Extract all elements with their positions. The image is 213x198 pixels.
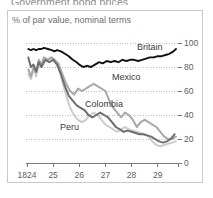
y-tick-label: 20 (184, 134, 206, 144)
x-tick-label: 28 (118, 170, 146, 180)
chart-figure: Government bond prices % of par value, n… (0, 0, 213, 198)
x-tick-label: 26 (65, 170, 93, 180)
x-tick-label: 27 (91, 170, 119, 180)
series-label-colombia: Colombia (85, 99, 123, 109)
y-tick-label: 100 (184, 38, 206, 48)
y-tick-label: 60 (184, 86, 206, 96)
series-label-britain: Britain (137, 42, 163, 52)
y-tick-label: 40 (184, 110, 206, 120)
x-axis (26, 163, 178, 167)
series-label-peru: Peru (60, 122, 79, 132)
x-tick-label: 1824 (13, 170, 41, 180)
y-tick-label: 0 (184, 158, 206, 168)
y-axis-ticks (178, 43, 182, 163)
data-series (28, 48, 176, 146)
y-tick-label: 80 (184, 62, 206, 72)
series-label-mexico: Mexico (112, 72, 141, 82)
x-tick-label: 25 (39, 170, 67, 180)
x-tick-label: 29 (144, 170, 172, 180)
